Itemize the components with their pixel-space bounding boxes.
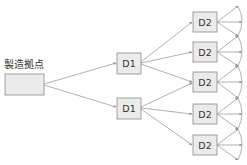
d1-node: D1 [117, 53, 141, 74]
d1-label: D1 [122, 58, 135, 69]
edge-d1-d2 [141, 22, 192, 62]
source-label: 製造拠点 [4, 58, 44, 70]
source-node [5, 74, 44, 95]
d2-node: D2 [193, 42, 217, 62]
edge-source-d1b [44, 85, 116, 107]
d2-node: D2 [193, 135, 217, 155]
d2-label: D2 [198, 47, 211, 58]
edge-d1-d2 [141, 109, 192, 145]
edge-d1-d2 [141, 83, 192, 107]
edge-d1-d2 [141, 52, 192, 63]
edge-d1-d2 [141, 108, 192, 114]
d1-label: D1 [122, 103, 135, 114]
d2-label: D2 [198, 140, 211, 151]
distribution-diagram: 製造拠点 D1 D1 D2 D2 D2 D2 D2 [0, 0, 247, 165]
d2-node: D2 [193, 72, 217, 92]
edge-source-d1a [44, 63, 116, 84]
d2-label: D2 [198, 17, 211, 28]
d2-node: D2 [193, 104, 217, 124]
edge-d1-d2 [141, 64, 192, 82]
customer-fanout [217, 6, 242, 160]
d1-node: D1 [117, 98, 141, 119]
d2-label: D2 [198, 109, 211, 120]
customer-arcs [238, 6, 242, 160]
d2-node: D2 [193, 12, 217, 32]
d2-label: D2 [198, 77, 211, 88]
